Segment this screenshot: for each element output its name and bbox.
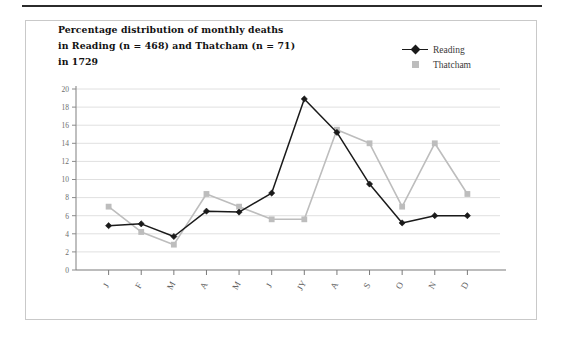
chart-title-line-2: in Reading (n = 468) and Thatcham (n = 7… [58,38,358,54]
chart-title-line-3: in 1729 [58,54,358,70]
legend-key-reading [400,44,430,56]
diamond-marker-icon [411,45,421,55]
chart-legend: Reading Thatcham [400,42,510,72]
top-horizontal-rule [22,5,542,7]
legend-item-thatcham[interactable]: Thatcham [400,57,510,72]
chart-title: Percentage distribution of monthly death… [58,22,358,70]
figure-page: Percentage distribution of monthly death… [0,0,564,343]
chart-title-line-1: Percentage distribution of monthly death… [58,22,358,38]
legend-item-reading[interactable]: Reading [400,42,510,57]
square-marker-icon [412,61,419,68]
legend-key-thatcham [400,59,430,71]
legend-label-thatcham: Thatcham [430,60,471,70]
legend-label-reading: Reading [430,45,465,55]
